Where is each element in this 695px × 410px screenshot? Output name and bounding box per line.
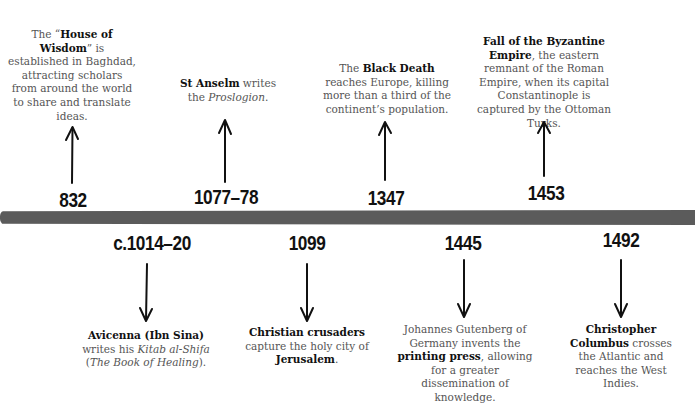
event-year: 1077–78 [191,186,262,207]
event-year: 1453 [526,182,567,203]
arrow-up-icon [64,125,80,185]
event-description: The Black Death reaches Europe, killing … [322,62,452,116]
arrow-down-icon [456,258,472,320]
arrow-up-icon [217,118,233,184]
arrow-down-icon [138,262,154,324]
event-description: The “House of Wisdom” is established in … [8,28,136,123]
event-year: 1492 [601,229,642,250]
event-description: Avicenna (Ibn Sina) writes his Kitab al-… [80,329,212,370]
event-year: 1347 [365,187,408,208]
event-description: Johannes Gutenberg of Germany invents th… [397,323,533,405]
event-year: 1445 [443,232,484,253]
event-year: c.1014–20 [108,232,197,253]
arrow-up-icon [536,120,552,178]
event-description: St Anselm writes the Proslogion. [178,77,278,104]
timeline-bar [0,210,695,225]
event-year: 1099 [287,232,328,253]
event-description: Christian crusaders capture the holy cit… [242,326,372,367]
event-description: Christopher Columbus crosses the Atlanti… [568,323,674,391]
event-year: 832 [53,189,94,210]
arrow-up-icon [377,120,393,182]
arrow-down-icon [613,258,629,320]
arrow-down-icon [299,262,315,324]
event-description: Fall of the Byzantine Empire, the easter… [473,35,615,130]
